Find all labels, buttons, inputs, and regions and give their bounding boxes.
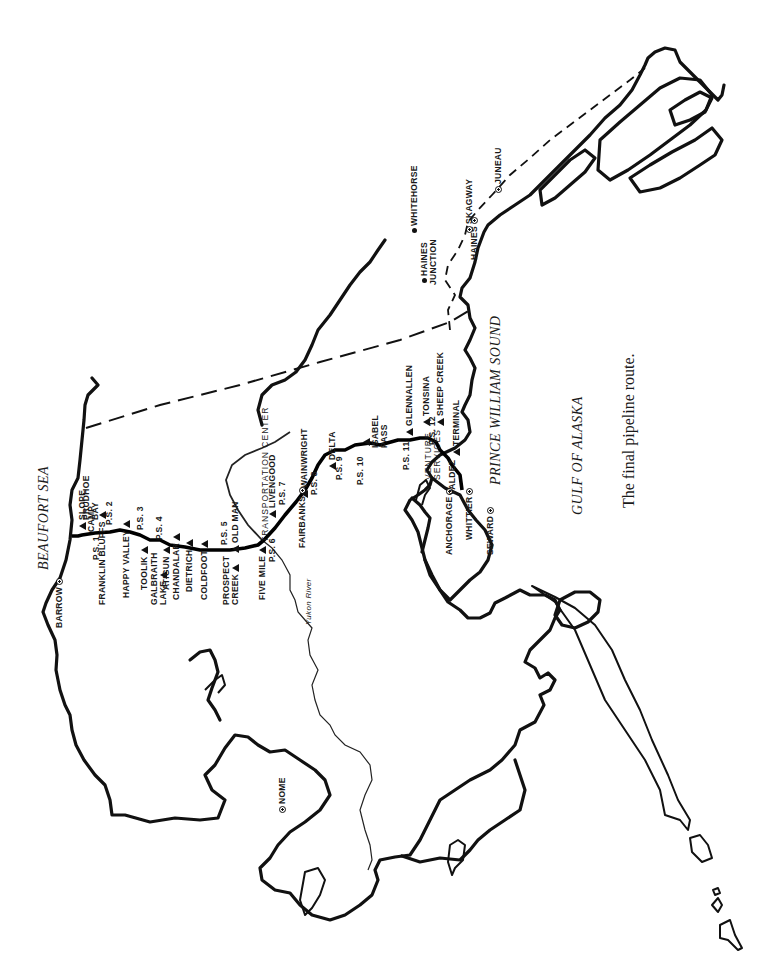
camp-triangle-icon: [232, 545, 239, 553]
camp-triangle-icon: [186, 539, 193, 547]
camp-happy-valley: HAPPY VALLEY: [122, 518, 131, 598]
city-anchorage: ANCHORAGE: [445, 486, 454, 555]
camp-triangle-icon: [201, 540, 208, 548]
city-skagway: SKAGWAY: [465, 179, 474, 235]
pump-station-5: P.S. 5: [220, 521, 229, 545]
pump-station-10: P.S. 10: [356, 456, 365, 485]
city-seward: SEWARD: [486, 505, 495, 555]
camp-triangle-icon: [437, 418, 444, 426]
canada-interior-line: [258, 240, 385, 425]
label-gulf-of-alaska: GULF OF ALASKA: [570, 396, 585, 515]
town-dot-icon: [412, 228, 417, 233]
aleutian-island: [713, 888, 720, 895]
label-beaufort-sea: BEAUFORT SEA: [36, 466, 51, 570]
camp-isabel-pass: ISABEL PASS: [362, 408, 389, 448]
pump-station-6: P.S. 6: [268, 538, 277, 562]
yukon-river: [262, 540, 372, 870]
city-barrow: BARROW: [55, 576, 64, 628]
city-marker-icon: [279, 806, 286, 813]
town-whitehorse: WHITEHORSE: [410, 165, 419, 235]
camp-triangle-icon: [269, 510, 276, 518]
camp-old-man: OLD MAN: [231, 501, 240, 555]
figure-caption: The final pipeline route.: [620, 353, 638, 508]
camp-triangle-icon: [141, 546, 148, 554]
camp-chandalar: CHANDALAR: [172, 531, 181, 600]
city-marker-icon: [495, 186, 502, 193]
pump-station-11: P.S. 11: [402, 442, 411, 470]
town-dot-icon: [422, 278, 427, 283]
camp-five-mile: FIVE MILE: [258, 544, 267, 600]
camp-atigun: ATIGUN: [162, 544, 171, 590]
pump-station-3: P.S. 3: [136, 506, 145, 530]
camp-terminal: TERMINAL: [452, 400, 461, 458]
city-marker-icon: [56, 578, 63, 585]
city-marker-icon: [466, 226, 473, 233]
city-nome: NOME: [278, 777, 287, 815]
town-haines-junction: HAINES JUNCTION: [420, 215, 438, 285]
camp-triangle-icon: [259, 546, 266, 554]
pump-station-9: P.S. 9: [335, 456, 344, 480]
pump-station-1: P.S. 1: [92, 536, 101, 560]
camp-triangle-icon: [123, 520, 130, 528]
aleutian-island: [712, 898, 722, 912]
camp-triangle-icon: [406, 428, 413, 436]
camp-triangle-icon: [301, 490, 308, 498]
pump-station-8: P.S. 8: [310, 471, 319, 495]
kenai-peninsula: [425, 478, 492, 600]
norton-sound: [190, 650, 220, 720]
alaska-peninsula: [532, 586, 690, 830]
city-marker-icon: [466, 488, 473, 495]
camp-slope-camp: SLOPE CAMP: [78, 487, 96, 532]
camp-glennallen: GLENNALLEN: [405, 365, 414, 438]
camp-livengood: LIVENGOOD: [268, 454, 277, 520]
camp-triangle-icon: [173, 533, 180, 541]
pump-station-12: P.S. 12: [428, 416, 437, 445]
aleutian-island: [690, 835, 712, 862]
label-yukon-river: Yukon River: [304, 578, 313, 625]
pump-station-7: P.S. 7: [278, 481, 287, 505]
label-prince-william-sound: PRINCE WILLIAM SOUND: [488, 316, 503, 485]
aleutian-island: [720, 920, 742, 950]
camp-dietrich: DIETRICH: [185, 537, 194, 592]
camp-coldfoot: COLDFOOT: [200, 538, 209, 600]
camp-wainwright: WAINWRIGHT: [300, 428, 309, 500]
city-valdez: VALDEZ: [448, 460, 457, 495]
city-whittier: WHITTIER: [465, 486, 474, 540]
panhandle-island: [670, 92, 712, 125]
alaska-pipeline-map: [0, 0, 775, 974]
camp-sheep-creek: SHEEP CREEK: [436, 352, 445, 428]
camp-toolik: TOOLIK: [140, 544, 149, 590]
camp-triangle-icon: [453, 448, 460, 456]
pump-station-4: P.S. 4: [155, 516, 164, 540]
city-marker-icon: [487, 507, 494, 514]
camp-triangle-icon: [163, 546, 170, 554]
pump-station-2: P.S. 2: [105, 501, 114, 525]
bristol-bay-coast: [402, 760, 525, 862]
city-juneau: JUNEAU: [494, 147, 503, 195]
camp-triangle-icon: [232, 564, 239, 572]
